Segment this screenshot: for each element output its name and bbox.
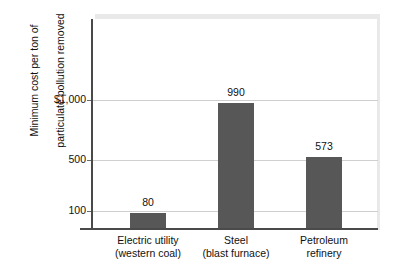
bar-value-label-steel: 990 [216,86,256,98]
gridline-1000 [92,100,378,101]
y-tick-label-100: 100 [68,205,86,216]
bar-steel[interactable] [218,103,254,228]
y-axis-line [91,19,93,229]
category-label-petroleum-refinery: Petroleum refinery [264,234,384,259]
y-tick-label-500: 500 [68,154,86,165]
category-label-line-1: Petroleum [264,234,384,247]
y-tick-label-1000: $1,000 [54,94,86,105]
y-axis-title: Minimum cost per ton of particulate poll… [15,0,80,176]
y-axis-title-line-1: Minimum cost per ton of [28,0,41,176]
bar-petroleum-refinery[interactable] [306,157,342,228]
x-axis-line [80,228,378,230]
category-label-line-2: refinery [264,247,384,260]
y-axis-title-line-2: particulate pollution removed [54,0,67,176]
bar-value-label-electric-utility: 80 [128,196,168,208]
bar-chart-figure: Minimum cost per ton of particulate poll… [0,0,405,273]
bar-electric-utility[interactable] [130,213,166,228]
bar-value-label-petroleum-refinery: 573 [304,140,344,152]
